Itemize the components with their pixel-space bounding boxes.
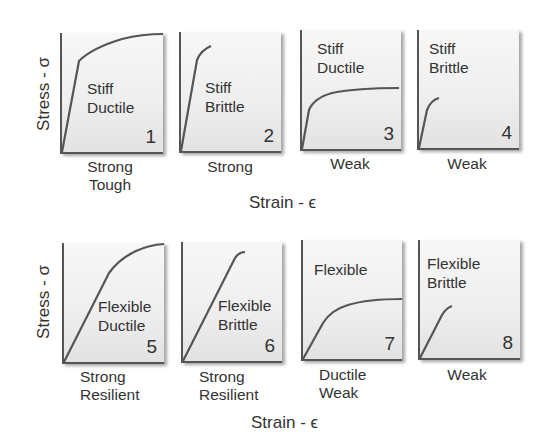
label-line2: Ductile xyxy=(87,98,134,117)
panel-3-number: 3 xyxy=(383,123,394,145)
label-line2: Ductile xyxy=(98,316,151,335)
label-line1: Flexible xyxy=(218,296,271,315)
caption-line2: Tough xyxy=(80,176,140,194)
caption-line2: Weak xyxy=(319,384,389,402)
panel-4-caption: Weak xyxy=(437,155,497,173)
y-axis-label-row1: Stress - σ xyxy=(34,44,54,144)
panel-7-caption: Ductile Weak xyxy=(319,366,389,402)
panel-4-label: Stiff Brittle xyxy=(429,39,469,77)
label-line2: Brittle xyxy=(429,58,469,77)
panel-3-label: Stiff Ductile xyxy=(317,39,364,77)
panel-5: Flexible Ductile 5 xyxy=(62,243,164,364)
caption-line1: Weak xyxy=(320,155,380,173)
panel-1-caption: Strong Tough xyxy=(80,158,140,194)
panel-4: Stiff Brittle 4 xyxy=(417,30,519,150)
panel-6-number: 6 xyxy=(264,335,275,357)
panel-5-number: 5 xyxy=(146,336,157,358)
panel-8-number: 8 xyxy=(502,332,513,354)
panel-8-label: Flexible Brittle xyxy=(427,254,480,292)
caption-line1: Strong xyxy=(80,158,140,176)
label-line2: Brittle xyxy=(205,97,245,116)
caption-line1: Weak xyxy=(437,366,497,384)
panel-3-caption: Weak xyxy=(320,155,380,173)
caption-line1: Strong xyxy=(80,368,150,386)
caption-line1: Ductile xyxy=(319,366,389,384)
label-line2: Ductile xyxy=(317,58,364,77)
panel-1-label: Stiff Ductile xyxy=(87,79,134,117)
label-line2: Brittle xyxy=(218,315,271,334)
panel-6-label: Flexible Brittle xyxy=(218,296,271,334)
panel-7: Flexible 7 xyxy=(301,240,402,361)
x-axis-label-row2: Strain - ϵ xyxy=(251,413,318,433)
label-line1: Stiff xyxy=(87,79,134,98)
caption-line1: Strong xyxy=(199,368,269,386)
panel-5-caption: Strong Resilient xyxy=(80,368,150,404)
panel-5-label: Flexible Ductile xyxy=(98,297,151,335)
label-line1: Flexible xyxy=(98,297,151,316)
label-line1: Flexible xyxy=(427,254,480,273)
panel-8: Flexible Brittle 8 xyxy=(418,240,520,360)
caption-line2: Resilient xyxy=(80,386,150,404)
caption-line1: Weak xyxy=(437,155,497,173)
label-line2: Brittle xyxy=(427,273,480,292)
panel-3: Stiff Ductile 3 xyxy=(300,30,401,151)
panel-1: Stiff Ductile 1 xyxy=(60,33,163,154)
panel-8-caption: Weak xyxy=(437,366,497,384)
label-line1: Flexible xyxy=(314,260,367,279)
caption-line2: Resilient xyxy=(199,386,269,404)
panel-2-number: 2 xyxy=(263,125,274,147)
panel-6: Flexible Brittle 6 xyxy=(181,242,282,363)
panel-6-caption: Strong Resilient xyxy=(199,368,269,404)
panel-7-number: 7 xyxy=(384,333,395,355)
panel-2: Stiff Brittle 2 xyxy=(179,32,281,153)
caption-line1: Strong xyxy=(200,158,260,176)
panel-2-caption: Strong xyxy=(200,158,260,176)
panel-7-label: Flexible xyxy=(314,260,367,279)
panel-1-number: 1 xyxy=(145,126,156,148)
x-axis-label-row1: Strain - ϵ xyxy=(249,193,316,213)
panel-4-number: 4 xyxy=(501,122,512,144)
label-line1: Stiff xyxy=(429,39,469,58)
panel-2-label: Stiff Brittle xyxy=(205,78,245,116)
label-line1: Stiff xyxy=(317,39,364,58)
label-line1: Stiff xyxy=(205,78,245,97)
y-axis-label-row2: Stress - σ xyxy=(34,252,54,352)
